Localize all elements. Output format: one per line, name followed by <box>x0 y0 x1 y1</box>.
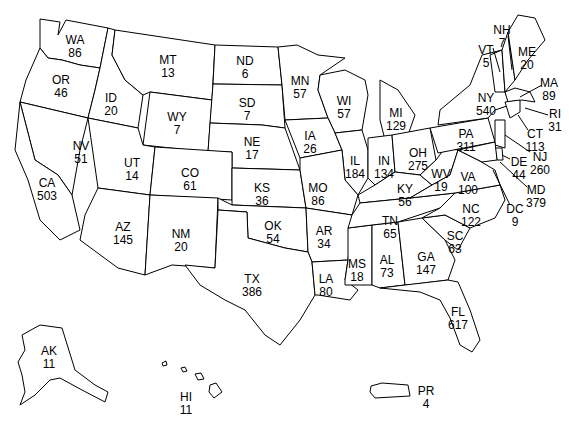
state-label-vt: VT5 <box>478 44 493 70</box>
state-value: 86 <box>66 47 85 60</box>
state-value: 80 <box>319 286 334 299</box>
state-value: 13 <box>159 67 176 80</box>
state-value: 11 <box>180 404 192 417</box>
state-value: 51 <box>73 153 90 166</box>
state-label-pa: PA311 <box>456 128 475 154</box>
state-value: 61 <box>181 180 199 193</box>
state-value: 46 <box>52 87 70 100</box>
state-label-nv: NV51 <box>73 140 90 166</box>
state-value: 44 <box>511 169 528 182</box>
state-label-az: AZ145 <box>113 221 133 247</box>
state-value: 100 <box>458 184 478 197</box>
state-label-ny: NY540 <box>476 92 496 118</box>
state-label-md: MD379 <box>526 184 546 210</box>
state-label-mi: MI129 <box>386 107 406 133</box>
state-label-ms: MS18 <box>348 258 366 284</box>
state-value: 5 <box>478 57 493 70</box>
state-value: 34 <box>316 238 333 251</box>
state-label-ok: OK54 <box>264 220 281 246</box>
state-value: 386 <box>242 286 262 299</box>
state-value: 57 <box>337 108 352 121</box>
state-label-mn: MN57 <box>291 75 310 101</box>
state-label-wa: WA86 <box>66 34 85 60</box>
state-label-nh: NH7 <box>493 24 510 50</box>
state-value: 19 <box>431 181 450 194</box>
state-value: 20 <box>104 105 117 118</box>
state-ak <box>18 325 108 405</box>
state-pr <box>370 383 410 398</box>
state-value: 54 <box>264 233 281 246</box>
state-value: 89 <box>540 90 558 103</box>
state-value: 9 <box>506 216 523 229</box>
state-value: 17 <box>244 149 261 162</box>
state-value: 20 <box>518 59 536 72</box>
state-hi-3 <box>195 373 204 380</box>
state-value: 275 <box>408 160 428 173</box>
state-value: 18 <box>348 271 366 284</box>
state-value: 57 <box>291 88 310 101</box>
state-value: 26 <box>303 143 316 156</box>
state-label-ky: KY56 <box>397 183 413 209</box>
state-label-ks: KS36 <box>254 182 270 208</box>
state-value: 73 <box>380 267 395 280</box>
state-value: 65 <box>382 228 398 241</box>
state-label-mo: MO86 <box>308 182 327 208</box>
state-label-hi: HI11 <box>180 391 192 417</box>
state-label-nc: NC122 <box>461 203 481 229</box>
state-value: 311 <box>456 141 475 154</box>
state-label-wi: WI57 <box>337 95 352 121</box>
state-label-or: OR46 <box>52 74 70 100</box>
state-label-sc: SC63 <box>447 230 464 256</box>
state-value: 147 <box>416 264 436 277</box>
state-label-ma: MA89 <box>540 77 558 103</box>
state-label-ar: AR34 <box>316 225 333 251</box>
state-value: 14 <box>124 170 140 183</box>
state-label-pr: PR4 <box>418 385 435 411</box>
state-label-wy: WY7 <box>167 111 186 137</box>
state-label-nd: ND6 <box>236 55 253 81</box>
state-value: 4 <box>418 398 435 411</box>
state-value: 63 <box>447 243 464 256</box>
state-value: 617 <box>448 319 468 332</box>
state-label-nj: NJ260 <box>530 151 550 177</box>
state-label-co: CO61 <box>181 167 199 193</box>
state-hi-1 <box>162 361 167 366</box>
state-label-va: VA100 <box>458 171 478 197</box>
state-hi-4 <box>209 383 222 398</box>
state-value: 6 <box>236 68 253 81</box>
state-label-la: LA80 <box>319 273 334 299</box>
state-label-ca: CA503 <box>37 177 57 203</box>
state-label-il: IL184 <box>345 155 365 181</box>
state-label-ga: GA147 <box>416 251 436 277</box>
state-hi-2 <box>181 367 187 372</box>
state-label-ia: IA26 <box>303 130 316 156</box>
state-label-in: IN134 <box>374 155 394 181</box>
state-value: 7 <box>493 37 510 50</box>
state-label-ne: NE17 <box>244 136 261 162</box>
state-value: 31 <box>548 121 561 134</box>
state-label-nm: NM20 <box>172 228 191 254</box>
state-label-ak: AK11 <box>41 345 57 371</box>
state-value: 134 <box>374 168 394 181</box>
state-value: 11 <box>41 358 57 371</box>
state-nj <box>495 120 505 148</box>
state-label-ut: UT14 <box>124 157 140 183</box>
state-value: 540 <box>476 105 496 118</box>
state-label-wv: WV19 <box>431 168 450 194</box>
state-value: 36 <box>254 195 270 208</box>
state-value: 20 <box>172 241 191 254</box>
state-value: 260 <box>530 164 550 177</box>
state-value: 7 <box>167 124 186 137</box>
state-label-dc: DC9 <box>506 203 523 229</box>
state-label-id: ID20 <box>104 92 117 118</box>
state-label-fl: FL617 <box>448 306 468 332</box>
state-label-al: AL73 <box>380 254 395 280</box>
state-label-mt: MT13 <box>159 54 176 80</box>
state-value: 56 <box>397 196 413 209</box>
state-label-tx: TX386 <box>242 273 262 299</box>
state-label-ri: RI31 <box>548 108 561 134</box>
state-value: 379 <box>526 197 546 210</box>
state-value: 145 <box>113 234 133 247</box>
state-value: 184 <box>345 168 365 181</box>
state-label-sd: SD7 <box>239 97 256 123</box>
